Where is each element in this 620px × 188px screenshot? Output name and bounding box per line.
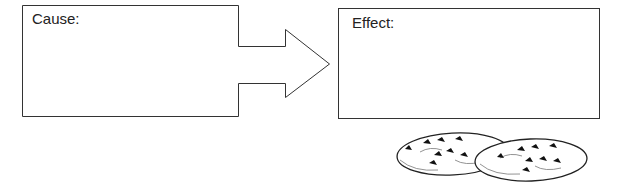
cause-label: Cause: bbox=[32, 10, 80, 27]
effect-label: Effect: bbox=[352, 14, 394, 31]
cause-effect-diagram bbox=[0, 0, 620, 188]
